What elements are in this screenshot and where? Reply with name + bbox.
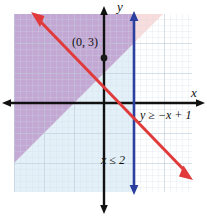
- test-point: [101, 55, 108, 62]
- inequality-graph: y x (0, 3) y ≥ −x + 1 x ≤ 2: [0, 0, 207, 220]
- x-axis-arrow-right: [196, 99, 205, 107]
- x-axis-label: x: [191, 85, 197, 101]
- y-axis-arrow-down: [100, 205, 108, 214]
- inequality-label-blue: x ≤ 2: [101, 153, 125, 168]
- x-axis-arrow-left: [2, 99, 11, 107]
- inequality-label-red: y ≥ −x + 1: [140, 108, 191, 123]
- y-axis-arrow-up: [100, 6, 108, 15]
- point-label: (0, 3): [72, 35, 98, 50]
- y-axis-label: y: [117, 0, 123, 15]
